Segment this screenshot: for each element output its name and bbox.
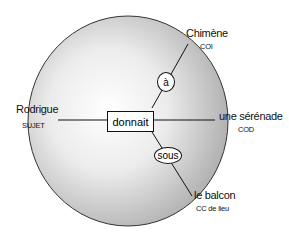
preposition-sous-label: sous <box>157 150 178 161</box>
indirect-object-function: COI <box>200 43 213 51</box>
direct-object-word: une sérénade <box>219 111 283 122</box>
place-complement-word: le balcon <box>194 190 235 201</box>
preposition-a-label: à <box>163 77 169 88</box>
indirect-object-word: Chimène <box>186 28 228 39</box>
verb-box: donnait <box>107 111 154 132</box>
subject-word: Rodrigue <box>16 104 58 115</box>
preposition-a-bubble: à <box>157 72 175 92</box>
place-complement-function: CC de lieu <box>196 205 229 213</box>
direct-object-function: COD <box>238 126 254 134</box>
preposition-sous-bubble: sous <box>154 147 182 164</box>
subject-function: SUJET <box>22 122 45 130</box>
verb-label: donnait <box>112 116 148 128</box>
